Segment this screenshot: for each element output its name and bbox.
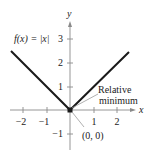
y-axis-label: y [66, 8, 72, 19]
x-tick-label: 1 [92, 116, 97, 127]
x-tick-label: −2 [16, 116, 27, 127]
x-tick-label: −1 [39, 116, 50, 127]
y-tick-label: 2 [58, 57, 63, 68]
origin-point-label: (0, 0) [82, 130, 104, 142]
chart-figure: −2 −1 1 2 3 2 1 −1 x y f(x) = |x| Relati… [0, 0, 151, 156]
y-axis-arrow-icon [68, 21, 72, 27]
minimum-point [68, 108, 73, 113]
relative-minimum-label: minimum [99, 95, 138, 106]
relative-minimum-label: Relative [98, 84, 132, 95]
point-label-leader [72, 112, 84, 127]
x-tick-label: 2 [115, 116, 120, 127]
function-label: f(x) = |x| [14, 33, 50, 45]
x-axis-arrow-icon [130, 108, 136, 112]
chart-canvas: −2 −1 1 2 3 2 1 −1 x y f(x) = |x| Relati… [0, 0, 151, 156]
x-axis-label: x [138, 104, 144, 115]
y-tick-label: 3 [58, 33, 63, 44]
y-tick-label: −1 [52, 128, 63, 139]
y-tick-label: 1 [58, 81, 63, 92]
